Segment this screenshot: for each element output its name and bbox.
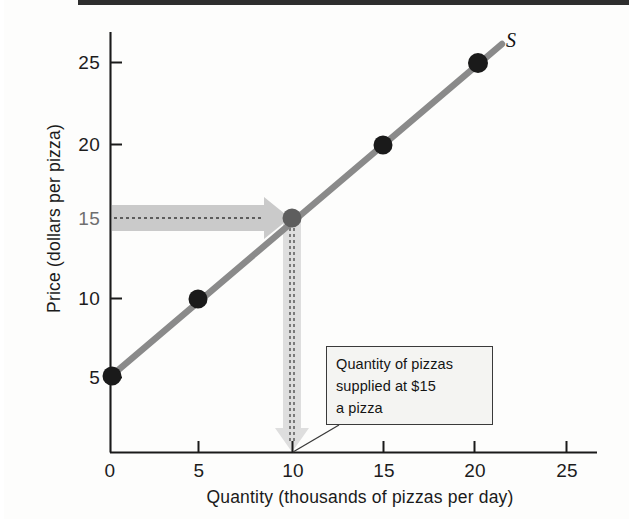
x-tick-label-15: 15 bbox=[368, 460, 400, 482]
callout-text: Quantity of pizzas supplied at $15 a piz… bbox=[336, 353, 488, 419]
callout-box: Quantity of pizzas supplied at $15 a piz… bbox=[326, 346, 493, 425]
x-tick-label-20: 20 bbox=[459, 460, 491, 482]
y-axis-title: Price (dollars per pizza) bbox=[44, 99, 65, 339]
data-point-5-10 bbox=[189, 290, 208, 309]
horizontal-price-arrow bbox=[112, 197, 290, 239]
figure-canvas: 25 20 15 10 5 0 5 10 15 20 25 Price (dol… bbox=[0, 0, 629, 519]
y-tick-label-10: 10 bbox=[60, 288, 100, 310]
data-point-10-15 bbox=[283, 209, 302, 228]
vertical-quantity-arrow bbox=[275, 222, 309, 452]
data-point-15-20 bbox=[374, 136, 393, 155]
y-tick-label-5: 5 bbox=[60, 367, 100, 389]
x-tick-label-5: 5 bbox=[183, 460, 215, 482]
x-tick-label-0: 0 bbox=[94, 460, 126, 482]
x-axis-title: Quantity (thousands of pizzas per day) bbox=[110, 487, 610, 508]
y-tick-label-25: 25 bbox=[60, 52, 100, 74]
data-point-0-5 bbox=[103, 367, 122, 386]
data-point-20-25 bbox=[468, 53, 488, 73]
y-tick-label-20: 20 bbox=[60, 134, 100, 156]
y-tick-label-15: 15 bbox=[60, 208, 100, 230]
x-tick-label-25: 25 bbox=[551, 460, 583, 482]
x-axis-ticks bbox=[199, 441, 567, 452]
supply-curve-label: S bbox=[506, 29, 516, 52]
supply-curve-plot bbox=[0, 0, 629, 519]
x-tick-label-10: 10 bbox=[277, 460, 309, 482]
